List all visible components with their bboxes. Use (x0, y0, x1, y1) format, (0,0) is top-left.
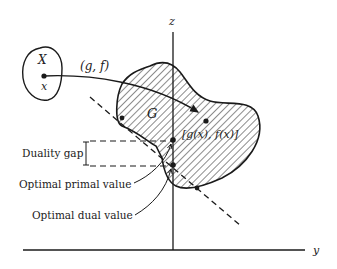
y-axis-label: y (312, 244, 320, 257)
image-set-region (117, 63, 260, 188)
duality-gap-bracket (83, 142, 89, 165)
tangent-point-lower (195, 186, 200, 191)
optimal-dual-arrow (135, 169, 171, 215)
optimal-dual-point (170, 162, 176, 168)
mapping-label: (g, f) (80, 59, 109, 73)
domain-set: X x (23, 47, 62, 100)
duality-gap-label: Duality gap (22, 147, 84, 159)
domain-set-label: X (37, 53, 47, 67)
image-set-label: G (147, 106, 157, 121)
optimal-dual-label: Optimal dual value (32, 209, 133, 221)
image-point (203, 118, 208, 123)
image-set: G (117, 63, 260, 188)
domain-point-label: x (41, 80, 48, 93)
z-axis-label: z (168, 15, 175, 28)
tangent-point-upper (120, 116, 125, 121)
optimal-primal-label: Optimal primal value (19, 178, 131, 190)
optimal-primal-point (170, 137, 176, 143)
image-point-label: [g(x), f(x)] (182, 128, 239, 141)
duality-gap-diagram: z y X x G (g, f) [g(x), f(x)] Duality ga… (0, 0, 337, 269)
